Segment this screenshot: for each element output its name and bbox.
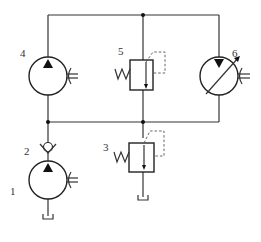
check-valve-2: [40, 143, 56, 154]
relief-valve-5: [115, 52, 165, 90]
junction-dot: [141, 13, 145, 17]
label-2: 2: [24, 145, 30, 157]
pump-motor-6: [200, 56, 250, 95]
hydraulic-circuit-diagram: 4 6 5 3 2 1: [0, 0, 261, 242]
pipelines: [48, 15, 219, 216]
label-5: 5: [118, 45, 124, 57]
label-4: 4: [20, 47, 26, 59]
label-1: 1: [10, 185, 16, 197]
label-3: 3: [103, 141, 109, 153]
relief-valve-3: [114, 131, 164, 172]
pump-motor-4: [29, 57, 78, 95]
label-6: 6: [232, 47, 238, 59]
pump-1: [29, 161, 78, 199]
junction-dot: [141, 120, 145, 124]
junction-dot: [46, 120, 50, 124]
